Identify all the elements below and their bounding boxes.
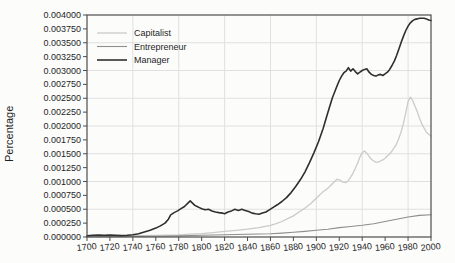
- y-tick-label: 0.001750: [43, 135, 81, 145]
- series-line-capitalist: [87, 97, 431, 236]
- y-tick-label: 0.001250: [43, 163, 81, 173]
- y-axis-title: Percentage: [3, 106, 15, 162]
- x-tick-label: 1960: [374, 241, 395, 253]
- x-tick-label: 1840: [237, 241, 258, 253]
- y-tick-label: 0.000750: [43, 190, 81, 200]
- ngram-frequency-chart: 0.0000000.0002500.0005000.0007500.001000…: [0, 0, 455, 263]
- legend: CapitalistEntrepreneurManager: [97, 28, 187, 65]
- legend-label-manager: Manager: [134, 55, 170, 65]
- x-tick-label: 1760: [145, 241, 166, 253]
- x-tick-label: 1740: [122, 241, 143, 253]
- y-tick-label: 0.003250: [43, 52, 81, 62]
- x-tick-label: 1780: [168, 241, 189, 253]
- y-tick-label: 0.003000: [43, 66, 81, 76]
- x-tick-label: 1940: [351, 241, 372, 253]
- y-tick-label: 0.002250: [43, 107, 81, 117]
- x-tick-label: 1920: [328, 241, 349, 253]
- legend-label-capitalist: Capitalist: [134, 28, 172, 38]
- y-tick-label: 0.002000: [43, 121, 81, 131]
- y-tick-labels: 0.0000000.0002500.0005000.0007500.001000…: [43, 10, 81, 242]
- y-tick-label: 0.003750: [43, 24, 81, 34]
- y-tick-label: 0.000000: [43, 232, 81, 242]
- x-tick-label: 1900: [306, 241, 327, 253]
- x-tick-label: 1720: [99, 241, 120, 253]
- x-tick-label: 1880: [283, 241, 304, 253]
- legend-label-entrepreneur: Entrepreneur: [134, 42, 187, 52]
- y-tick-label: 0.004000: [43, 10, 81, 20]
- chart-canvas: 0.0000000.0002500.0005000.0007500.001000…: [0, 0, 455, 263]
- y-tick-label: 0.002500: [43, 93, 81, 103]
- x-tick-label: 2000: [420, 241, 441, 253]
- y-tick-label: 0.001000: [43, 177, 81, 187]
- x-tick-labels: 1700172017401760178018001820184018601880…: [76, 241, 441, 253]
- x-tick-label: 1980: [397, 241, 418, 253]
- y-tick-label: 0.001500: [43, 149, 81, 159]
- x-tick-label: 1820: [214, 241, 235, 253]
- x-tick-label: 1860: [260, 241, 281, 253]
- x-tick-label: 1800: [191, 241, 212, 253]
- y-tick-label: 0.003500: [43, 38, 81, 48]
- x-tick-label: 1700: [76, 241, 97, 253]
- y-tick-label: 0.002750: [43, 79, 81, 89]
- y-tick-label: 0.000500: [43, 204, 81, 214]
- y-tick-label: 0.000250: [43, 218, 81, 228]
